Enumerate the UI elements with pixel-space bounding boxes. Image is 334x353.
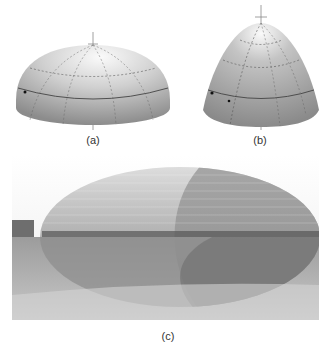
figure-a-label: (a) — [78, 134, 108, 146]
figure-c-label: (c) — [153, 330, 183, 342]
figure-b-label: (b) — [245, 134, 275, 146]
figure-b-paraboloid — [198, 5, 323, 130]
building-photo — [12, 155, 319, 320]
figure-c-photo — [12, 155, 319, 320]
ellipsoid-diagram — [8, 30, 178, 130]
figure-a-ellipsoid — [8, 30, 178, 130]
paraboloid-diagram — [198, 5, 323, 130]
